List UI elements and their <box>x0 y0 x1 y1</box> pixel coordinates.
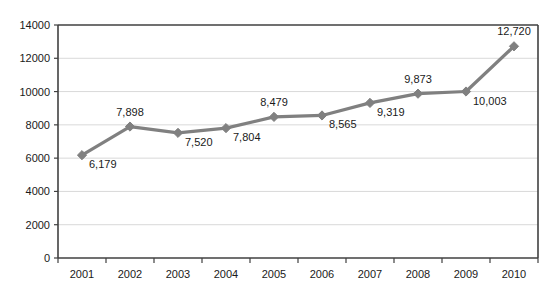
y-tick-label: 10000 <box>19 86 50 98</box>
x-tick-label: 2010 <box>502 268 526 280</box>
y-tick-label: 14000 <box>19 19 50 31</box>
y-axis-ticks: 02000400060008000100001200014000 <box>19 19 58 264</box>
data-point-label: 7,520 <box>185 136 213 148</box>
y-tick-label: 4000 <box>26 185 50 197</box>
x-tick-label: 2008 <box>406 268 430 280</box>
y-tick-label: 0 <box>44 252 50 264</box>
data-point-label: 10,003 <box>473 95 507 107</box>
chart-canvas: 0200040006000800010000120001400020012002… <box>0 0 555 292</box>
data-point-label: 9,873 <box>404 73 432 85</box>
data-point-label: 12,720 <box>497 25 531 37</box>
x-tick-label: 2001 <box>70 268 94 280</box>
x-tick-label: 2005 <box>262 268 286 280</box>
line-chart: 0200040006000800010000120001400020012002… <box>0 0 555 292</box>
data-point-label: 8,565 <box>329 118 357 130</box>
x-tick-label: 2003 <box>166 268 190 280</box>
x-tick-label: 2002 <box>118 268 142 280</box>
x-tick-label: 2006 <box>310 268 334 280</box>
data-point-label: 8,479 <box>260 96 288 108</box>
data-point-label: 9,319 <box>377 106 405 118</box>
data-point-label: 7,804 <box>233 131 261 143</box>
x-axis-ticks: 2001200220032004200520062007200820092010 <box>58 258 538 280</box>
y-tick-label: 12000 <box>19 52 50 64</box>
x-tick-label: 2009 <box>454 268 478 280</box>
data-point-label: 6,179 <box>89 158 117 170</box>
plot-background <box>58 25 538 258</box>
x-tick-label: 2007 <box>358 268 382 280</box>
y-tick-label: 6000 <box>26 152 50 164</box>
y-tick-label: 8000 <box>26 119 50 131</box>
data-point-label: 7,898 <box>116 106 144 118</box>
y-tick-label: 2000 <box>26 219 50 231</box>
x-tick-label: 2004 <box>214 268 238 280</box>
